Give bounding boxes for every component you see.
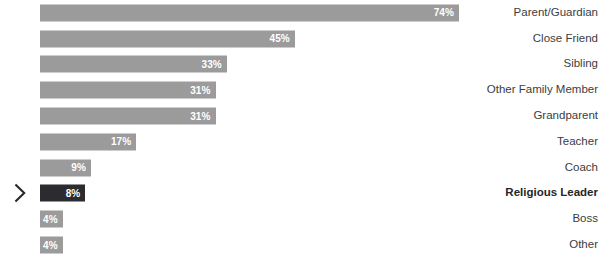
bar-track: 17% — [40, 133, 459, 150]
bar-value-label: 31% — [190, 85, 210, 95]
bar-track: 31% — [40, 108, 459, 125]
bar-value-label: 17% — [111, 137, 131, 147]
bar-chart-row: 17%Teacher — [0, 129, 602, 155]
bar-chart-row: 4%Other — [0, 232, 602, 258]
bar: 74% — [40, 4, 459, 21]
bar-track: 31% — [40, 82, 459, 99]
category-label: Other Family Member — [487, 85, 598, 97]
bar: 8% — [40, 185, 85, 202]
bar-chart-row: 74%Parent/Guardian — [0, 0, 602, 26]
bar-track: 74% — [40, 4, 459, 21]
bar-track: 33% — [40, 56, 459, 73]
bar: 17% — [40, 133, 136, 150]
bar-chart-row: 8%Religious Leader — [0, 181, 602, 207]
bar: 31% — [40, 108, 216, 125]
bar: 31% — [40, 82, 216, 99]
category-label: Religious Leader — [505, 188, 598, 200]
bar-chart-row: 45%Close Friend — [0, 26, 602, 52]
bar-chart-row: 4%Boss — [0, 206, 602, 232]
bar: 4% — [40, 237, 63, 254]
category-label: Other — [569, 239, 598, 251]
bar-track: 9% — [40, 159, 459, 176]
bar-value-label: 4% — [43, 214, 58, 224]
category-label: Parent/Guardian — [514, 7, 598, 19]
category-label: Sibling — [563, 59, 598, 71]
bar-value-label: 33% — [202, 59, 222, 69]
bar-chart-rows: 74%Parent/Guardian45%Close Friend33%Sibl… — [0, 0, 602, 258]
category-label: Teacher — [557, 136, 598, 148]
bar-track: 45% — [40, 30, 459, 47]
bar-track: 4% — [40, 211, 459, 228]
bar-chart-row: 31%Grandparent — [0, 103, 602, 129]
category-label: Grandparent — [533, 110, 598, 122]
bar-chart-row: 33%Sibling — [0, 52, 602, 78]
chevron-right-icon — [9, 183, 31, 203]
bar: 4% — [40, 211, 63, 228]
category-label: Boss — [572, 214, 598, 226]
bar-value-label: 8% — [66, 188, 81, 198]
bar-value-label: 45% — [269, 34, 289, 44]
category-label: Close Friend — [533, 33, 598, 45]
bar-track: 8% — [40, 185, 459, 202]
bar-value-label: 9% — [71, 163, 86, 173]
bar: 33% — [40, 56, 227, 73]
bar: 45% — [40, 30, 295, 47]
bar-chart: 74%Parent/Guardian45%Close Friend33%Sibl… — [0, 0, 602, 258]
bar-value-label: 74% — [434, 8, 454, 18]
bar-chart-row: 9%Coach — [0, 155, 602, 181]
bar: 9% — [40, 159, 91, 176]
category-label: Coach — [565, 162, 598, 174]
bar-chart-row: 31%Other Family Member — [0, 77, 602, 103]
bar-track: 4% — [40, 237, 459, 254]
bar-value-label: 4% — [43, 240, 58, 250]
bar-value-label: 31% — [190, 111, 210, 121]
